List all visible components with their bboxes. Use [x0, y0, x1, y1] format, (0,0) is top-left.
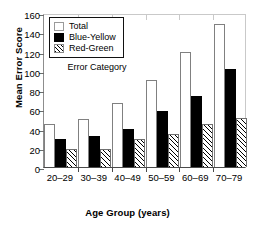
bar-red-green: [168, 134, 179, 167]
x-tick-mark: [146, 167, 147, 172]
x-tick-label: 20–29: [47, 172, 73, 183]
bar-red-green: [236, 118, 247, 167]
legend-label-total: Total: [69, 22, 88, 31]
y-tick-label: 120: [10, 48, 40, 59]
x-tick-label: 70–79: [216, 172, 242, 183]
legend: Total Blue-Yellow Red-Green: [49, 17, 124, 58]
bar-blue-yellow: [191, 96, 202, 167]
bar-total: [180, 52, 191, 168]
legend-item-red-green: Red-Green: [54, 43, 116, 54]
legend-item-blue-yellow: Blue-Yellow: [54, 32, 116, 43]
bar-red-green: [134, 139, 145, 167]
x-tick-mark: [112, 167, 113, 172]
bar-red-green: [100, 149, 111, 167]
legend-caption: Error Category: [49, 62, 145, 72]
bar-chart-figure: Mean Error Score 020406080100120140160 2…: [0, 0, 255, 225]
bar-total: [146, 80, 157, 167]
bar-blue-yellow: [157, 111, 168, 167]
x-tick-label: 40–49: [114, 172, 140, 183]
x-tick-label: 30–39: [81, 172, 107, 183]
y-tick-label: 140: [10, 29, 40, 40]
y-tick-label: 60: [10, 106, 40, 117]
y-tick-label: 100: [10, 67, 40, 78]
legend-item-total: Total: [54, 21, 116, 32]
white-box-icon: [54, 22, 64, 31]
bar-group: [146, 15, 180, 167]
hatched-box-icon: [54, 44, 64, 53]
x-axis-title: Age Group (years): [0, 207, 255, 218]
legend-label-blue-yellow: Blue-Yellow: [69, 33, 116, 42]
bar-red-green: [202, 124, 213, 167]
bar-blue-yellow: [55, 139, 66, 167]
bar-group: [213, 15, 247, 167]
bar-total: [78, 119, 89, 167]
black-box-icon: [54, 33, 64, 42]
bar-blue-yellow: [225, 69, 236, 167]
bar-total: [112, 103, 123, 167]
bar-red-green: [66, 149, 77, 167]
bar-total: [214, 24, 225, 167]
y-tick-label: 160: [10, 10, 40, 21]
bar-blue-yellow: [89, 136, 100, 167]
x-tick-mark: [213, 167, 214, 172]
x-tick-label: 60–69: [182, 172, 208, 183]
bar-group: [179, 15, 213, 167]
y-tick-label: 80: [10, 87, 40, 98]
x-tick-label: 50–59: [148, 172, 174, 183]
bar-blue-yellow: [123, 129, 134, 168]
x-tick-mark: [179, 167, 180, 172]
y-tick-label: 40: [10, 125, 40, 136]
legend-label-red-green: Red-Green: [69, 44, 114, 53]
x-tick-mark: [78, 167, 79, 172]
y-tick-label: 0: [10, 164, 40, 175]
y-tick-label: 20: [10, 144, 40, 155]
bar-total: [44, 124, 55, 167]
